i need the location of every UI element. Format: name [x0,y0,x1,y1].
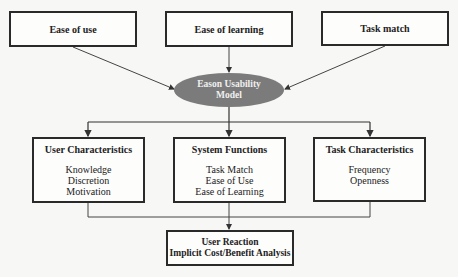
factor-item: Task Match [206,164,253,175]
input-box-ease-of-use: Ease of use [9,11,137,47]
input-box-ease-of-learning: Ease of learning [165,11,293,47]
input-label: Ease of learning [195,24,264,35]
eason-usability-model-node: Eason Usability Model [174,73,284,107]
input-label: Task match [360,23,409,34]
factor-box-user-characteristics: User Characteristics Knowledge Discretio… [32,137,145,203]
factor-item: Ease of Use [206,175,254,186]
factor-item: Frequency [348,164,390,175]
factor-title: System Functions [192,144,267,155]
factor-item: Ease of Learning [195,186,263,197]
factor-item: Discretion [68,175,110,186]
center-label-line2: Model [216,90,242,101]
factor-item: Openness [350,175,389,186]
input-box-task-match: Task match [321,11,449,46]
output-label-line2: Implicit Cost/Benefit Analysis [170,248,291,259]
output-box-user-reaction: User Reaction Implicit Cost/Benefit Anal… [166,230,294,266]
factor-item: Knowledge [65,164,111,175]
factor-title: Task Characteristics [326,144,414,155]
center-label-line1: Eason Usability [197,79,261,90]
output-label-line1: User Reaction [201,237,258,248]
factor-title: User Characteristics [45,144,132,155]
input-label: Ease of use [49,24,96,35]
factor-box-system-functions: System Functions Task Match Ease of Use … [173,137,286,203]
factor-box-task-characteristics: Task Characteristics Frequency Openness [313,137,426,202]
factor-item: Motivation [66,186,110,197]
